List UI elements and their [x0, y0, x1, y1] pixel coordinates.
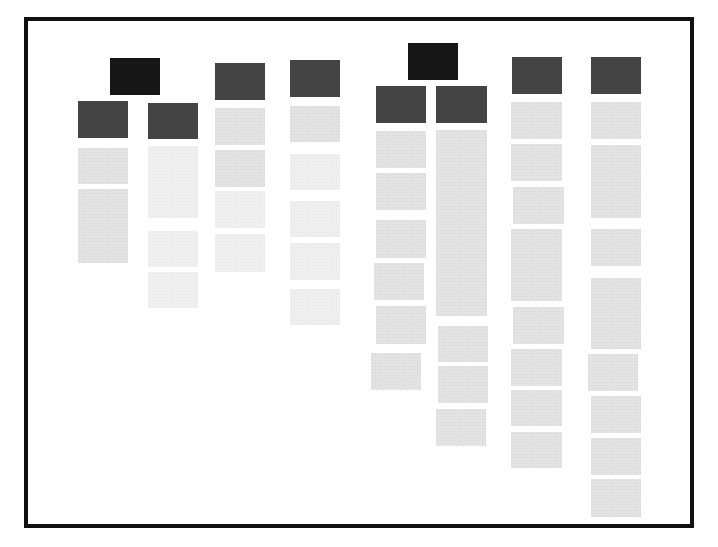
leaf-node-block — [78, 148, 128, 184]
column-header-block — [376, 86, 426, 123]
leaf-node-block — [588, 354, 638, 391]
leaf-node-block — [511, 102, 562, 139]
column-header-block — [78, 101, 128, 138]
leaf-node-block — [290, 154, 340, 190]
leaf-node-block — [376, 131, 426, 168]
leaf-node-block — [78, 189, 128, 263]
leaf-node-block — [591, 479, 641, 517]
leaf-node-block — [374, 263, 424, 300]
leaf-node-block — [215, 108, 265, 145]
leaf-node-block — [438, 326, 488, 362]
leaf-node-block — [376, 306, 426, 344]
leaf-node-block — [438, 366, 488, 403]
column-header-block — [148, 103, 198, 139]
leaf-node-block — [215, 191, 265, 228]
leaf-node-block — [591, 145, 641, 218]
leaf-node-block — [148, 146, 198, 218]
leaf-node-block — [511, 432, 562, 468]
leaf-node-block — [215, 234, 265, 272]
root-node-block — [110, 58, 160, 95]
leaf-node-block — [376, 220, 426, 258]
column-header-block — [436, 86, 487, 123]
root-node-block — [408, 43, 458, 80]
leaf-node-block — [436, 409, 486, 446]
leaf-node-block — [591, 229, 641, 266]
column-header-block — [290, 60, 340, 97]
leaf-node-block — [511, 349, 562, 386]
leaf-node-block — [215, 150, 265, 187]
leaf-node-block — [513, 307, 564, 344]
column-header-block — [591, 57, 641, 94]
leaf-node-block — [371, 353, 421, 390]
leaf-node-block — [511, 229, 562, 301]
leaf-node-block — [591, 438, 641, 475]
column-header-block — [215, 63, 265, 100]
leaf-node-block — [290, 243, 340, 280]
leaf-node-block — [591, 102, 641, 139]
leaf-node-block — [511, 144, 562, 181]
leaf-node-block — [148, 272, 198, 308]
leaf-node-block — [436, 130, 487, 316]
leaf-node-block — [376, 173, 426, 210]
leaf-node-block — [511, 390, 562, 426]
leaf-node-block — [591, 278, 641, 349]
leaf-node-block — [290, 201, 340, 237]
leaf-node-block — [148, 231, 198, 267]
leaf-node-block — [290, 289, 340, 325]
column-header-block — [512, 57, 562, 94]
leaf-node-block — [513, 187, 564, 224]
leaf-node-block — [290, 106, 340, 142]
leaf-node-block — [591, 396, 641, 433]
